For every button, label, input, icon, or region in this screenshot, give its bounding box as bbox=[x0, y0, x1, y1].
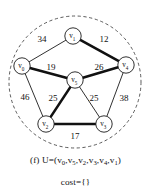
edge-weight-v5-v2: 25 bbox=[49, 93, 59, 103]
edge-weight-v0-v1: 34 bbox=[38, 34, 48, 44]
graph-nodes-group: v0v1v2v3v4v5 bbox=[14, 28, 134, 132]
caption-vertex-set: (f) U=(v0,v5,v2,v3,v4,v1) bbox=[0, 155, 151, 165]
edge-weight-v4-v3: 38 bbox=[120, 93, 130, 103]
edge-weight-v0-v2: 46 bbox=[21, 92, 31, 102]
figure-container: v0v1v2v3v4v5 341219264625253817 (f) U=(v… bbox=[0, 0, 151, 196]
edge-weight-v1-v4: 12 bbox=[100, 34, 109, 44]
edge-weight-v0-v5: 19 bbox=[47, 62, 57, 72]
edge-weight-v5-v3: 25 bbox=[90, 93, 100, 103]
graph-diagram: v0v1v2v3v4v5 341219264625253817 bbox=[0, 0, 151, 196]
edge-weight-v5-v4: 26 bbox=[95, 62, 105, 72]
edge-weight-v2-v3: 17 bbox=[71, 131, 81, 141]
caption-cost: cost={} bbox=[0, 177, 151, 187]
graph-edge-v0-v1 bbox=[29, 40, 66, 62]
